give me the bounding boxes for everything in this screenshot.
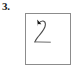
item-number-label: 3. [2, 0, 10, 13]
stimulus-box [25, 13, 71, 65]
handdrawn-digit-two-stroke-icon [26, 14, 71, 65]
stroke-start-arrowhead-icon [37, 19, 41, 26]
figure-panel: 3. [0, 0, 83, 74]
